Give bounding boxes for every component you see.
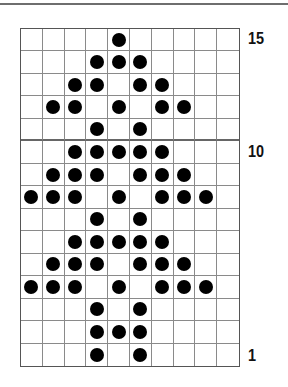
stitch-dot-icon — [24, 280, 38, 294]
chart-cell — [217, 74, 239, 96]
chart-cell — [217, 164, 239, 186]
chart-cell — [21, 344, 43, 366]
chart-cell — [108, 186, 130, 208]
chart-cell — [152, 96, 174, 118]
chart-cell — [130, 321, 152, 343]
chart-cell — [86, 254, 108, 276]
chart-cell — [174, 299, 196, 321]
stitch-dot-icon — [68, 235, 82, 249]
chart-cell — [174, 74, 196, 96]
chart-cell — [86, 51, 108, 73]
chart-cell — [65, 51, 87, 73]
chart-cell — [21, 96, 43, 118]
stitch-dot-icon — [177, 100, 191, 114]
chart-cell — [195, 141, 217, 163]
chart-cell — [21, 254, 43, 276]
row-label-15: 15 — [248, 29, 264, 49]
chart-cell — [21, 276, 43, 298]
chart-cell — [86, 299, 108, 321]
chart-cell — [174, 231, 196, 253]
stitch-dot-icon — [90, 325, 104, 339]
chart-cell — [43, 119, 65, 141]
chart-cell — [86, 276, 108, 298]
chart-cell — [152, 231, 174, 253]
chart-cell — [217, 299, 239, 321]
stitch-dot-icon — [90, 257, 104, 271]
top-rule — [0, 3, 288, 5]
stitch-dot-icon — [133, 302, 147, 316]
chart-cell — [152, 209, 174, 231]
chart-cell — [130, 29, 152, 51]
chart-cell — [152, 321, 174, 343]
chart-cell — [108, 119, 130, 141]
stitch-dot-icon — [46, 168, 60, 182]
chart-cell — [108, 74, 130, 96]
chart-cell — [130, 209, 152, 231]
chart-cell — [152, 141, 174, 163]
stitch-dot-icon — [155, 280, 169, 294]
chart-cell — [174, 29, 196, 51]
stitch-dot-icon — [155, 235, 169, 249]
chart-cell — [130, 96, 152, 118]
stitch-dot-icon — [155, 168, 169, 182]
stitch-dot-icon — [90, 78, 104, 92]
chart-cell — [217, 321, 239, 343]
chart-cell — [21, 141, 43, 163]
chart-cell — [152, 74, 174, 96]
chart-cell — [195, 119, 217, 141]
chart-cell — [108, 164, 130, 186]
chart-cell — [152, 51, 174, 73]
chart-cell — [195, 254, 217, 276]
chart-cell — [217, 186, 239, 208]
stitch-dot-icon — [68, 145, 82, 159]
chart-cell — [108, 29, 130, 51]
chart-cell — [108, 254, 130, 276]
chart-cell — [195, 276, 217, 298]
chart-cell — [152, 119, 174, 141]
stitch-dot-icon — [199, 190, 213, 204]
chart-cell — [152, 186, 174, 208]
stitch-dot-icon — [112, 190, 126, 204]
chart-cell — [195, 74, 217, 96]
chart-cell — [130, 51, 152, 73]
chart-cell — [43, 141, 65, 163]
chart-cell — [86, 29, 108, 51]
chart-cell — [43, 164, 65, 186]
chart-cell — [21, 209, 43, 231]
chart-cell — [21, 119, 43, 141]
chart-cell — [43, 29, 65, 51]
chart-cell — [43, 321, 65, 343]
stitch-dot-icon — [133, 325, 147, 339]
stitch-dot-icon — [177, 168, 191, 182]
stitch-dot-icon — [90, 235, 104, 249]
chart-cell — [43, 51, 65, 73]
chart-cell — [86, 96, 108, 118]
chart-cell — [174, 276, 196, 298]
chart-cell — [152, 276, 174, 298]
knitting-chart — [20, 28, 240, 367]
chart-cell — [174, 141, 196, 163]
stitch-dot-icon — [112, 325, 126, 339]
chart-cell — [21, 164, 43, 186]
stitch-dot-icon — [46, 190, 60, 204]
chart-cell — [152, 344, 174, 366]
chart-cell — [43, 209, 65, 231]
stitch-dot-icon — [68, 280, 82, 294]
chart-cell — [86, 119, 108, 141]
chart-cell — [43, 74, 65, 96]
stitch-dot-icon — [68, 100, 82, 114]
chart-cell — [174, 119, 196, 141]
row-label-1: 1 — [248, 346, 256, 366]
chart-cell — [195, 209, 217, 231]
chart-cell — [65, 276, 87, 298]
stitch-dot-icon — [90, 145, 104, 159]
chart-cell — [65, 321, 87, 343]
stitch-dot-icon — [90, 302, 104, 316]
chart-cell — [108, 344, 130, 366]
chart-cell — [130, 119, 152, 141]
chart-cell — [195, 231, 217, 253]
chart-cell — [21, 231, 43, 253]
chart-cell — [65, 29, 87, 51]
chart-cell — [43, 231, 65, 253]
chart-cell — [130, 186, 152, 208]
